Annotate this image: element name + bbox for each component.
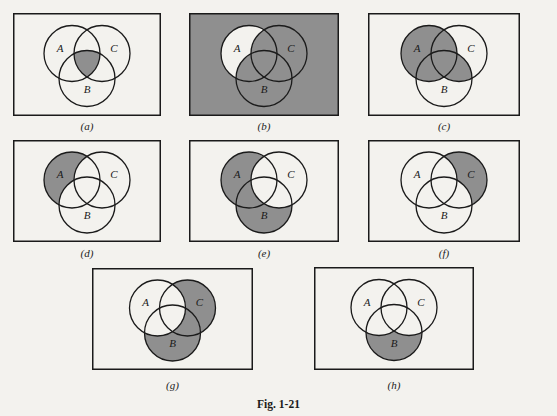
set-label-c: C [110,168,118,180]
figure-caption: Fig. 1-21 [0,398,557,410]
venn-panel-g: ACB (g) [92,268,253,393]
panel-caption: (h) [314,379,474,391]
set-label-b: B [84,83,91,95]
set-label-b: B [169,337,176,349]
venn-diagram: ACB [314,267,474,370]
venn-diagram: ACB [92,268,253,370]
set-label-a: A [413,42,421,54]
set-label-b: B [441,209,448,221]
set-label-c: C [287,42,295,54]
venn-panel-e: ACB (e) [189,140,339,265]
venn-panel-h: ACB (h) [314,267,474,392]
panel-caption: (c) [368,120,520,132]
set-label-a: A [413,168,421,180]
panel-caption: (e) [189,247,339,259]
panel-caption: (g) [92,379,253,391]
venn-diagram: ACB [13,140,161,242]
set-label-c: C [287,168,295,180]
set-label-a: A [363,296,371,308]
panel-caption: (a) [13,120,161,132]
set-label-c: C [417,296,425,308]
set-label-c: C [110,42,118,54]
set-label-a: A [56,168,64,180]
set-label-b: B [261,209,268,221]
venn-panel-d: ACB (d) [13,140,161,265]
venn-diagram: ACB [189,13,339,116]
set-label-b: B [84,209,91,221]
venn-diagram: ACB [368,13,520,116]
venn-diagram: ACB [189,140,339,242]
set-label-c: C [467,168,475,180]
panel-caption: (b) [189,120,339,132]
set-label-a: A [233,168,241,180]
set-label-b: B [441,83,448,95]
set-label-b: B [261,83,268,95]
panel-caption: (f) [368,247,520,259]
set-label-c: C [467,42,475,54]
venn-panel-a: ACB (a) [13,13,161,138]
set-label-b: B [391,337,398,349]
venn-panel-f: ACB (f) [368,140,520,265]
set-label-c: C [196,296,204,308]
set-label-a: A [56,42,64,54]
venn-diagram: ACB [368,140,520,242]
panel-caption: (d) [13,247,161,259]
set-label-a: A [141,296,149,308]
venn-diagram: ACB [13,13,161,116]
venn-panel-c: ACB (c) [368,13,520,138]
venn-panel-b: ACB (b) [189,13,339,138]
set-label-a: A [233,42,241,54]
